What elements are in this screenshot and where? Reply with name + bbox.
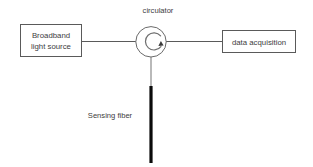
source-box-label-line1: Broadband	[32, 31, 70, 40]
schematic-drawing: Broadband light source data acquisition …	[0, 0, 313, 167]
sensing-fiber-label: Sensing fiber	[88, 111, 133, 120]
source-box-label-line2: light source	[31, 42, 71, 51]
daq-box-label: data acquisition	[232, 38, 286, 47]
diagram-canvas: Broadband light source data acquisition …	[0, 0, 313, 167]
circulator-label: circulator	[143, 6, 174, 15]
source-box-outline	[21, 25, 82, 57]
circulator-circle	[136, 27, 166, 57]
